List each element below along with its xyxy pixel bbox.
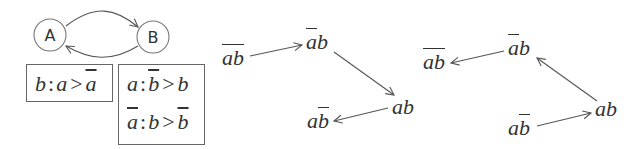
node-b-label: B [148, 28, 159, 47]
var-a: a [307, 108, 318, 133]
middle-state-nab: ab [306, 31, 328, 53]
var-b-negated: b [519, 115, 530, 140]
var-b: b [519, 35, 530, 60]
rule-a-2: a:b>b [127, 109, 189, 135]
edge-a-to-b [66, 11, 138, 27]
rule-right: b [178, 71, 189, 96]
node-a-label: A [45, 26, 56, 45]
right-state-anb: ab [508, 117, 530, 139]
rule-b: b:a>a [35, 71, 97, 97]
var-b-negated: b [233, 45, 244, 70]
rule-colon: : [46, 71, 56, 96]
var-a-negated: a [508, 35, 519, 60]
var-a: a [392, 94, 403, 119]
edge-ab-to-nab [537, 58, 597, 101]
rule-gt: > [159, 109, 177, 134]
edge-ab-to-anb [334, 108, 388, 121]
rule-left-negated: b [148, 71, 159, 96]
rule-left: a [56, 71, 67, 96]
var-b: b [606, 96, 617, 121]
var-a-negated: a [423, 49, 434, 74]
right-state-nab: ab [508, 37, 530, 59]
rule-right-negated: a [86, 71, 97, 96]
rule-player-negated: a [127, 109, 138, 134]
edge-anb-to-ab [537, 113, 591, 126]
rule-colon: : [138, 71, 148, 96]
rule-right-negated: b [178, 109, 189, 134]
var-a-negated: a [306, 29, 317, 54]
rule-player: a [127, 71, 138, 96]
rule-gt: > [159, 71, 177, 96]
var-b-negated: b [318, 108, 329, 133]
edge-nab-to-nanb [451, 51, 504, 63]
preference-box-a: a:b>b a:b>b [118, 64, 205, 145]
var-b: b [317, 29, 328, 54]
var-b: b [403, 94, 414, 119]
preference-box-b: b:a>a [26, 64, 113, 102]
rule-a-1: a:b>b [127, 71, 189, 97]
edge-nanb-to-nab [250, 45, 302, 56]
rule-left: b [148, 109, 159, 134]
game-graph: A B [34, 11, 169, 57]
middle-state-nanb: ab [222, 47, 244, 69]
middle-state-anb: ab [307, 110, 329, 132]
edge-nab-to-ab [334, 52, 394, 95]
middle-state-ab: ab [392, 96, 414, 118]
rule-colon: : [138, 109, 148, 134]
right-state-nanb: ab [423, 51, 445, 73]
var-a-negated: a [222, 45, 233, 70]
right-state-ab: ab [595, 98, 617, 120]
edge-b-to-a [66, 46, 138, 57]
rule-gt: > [67, 71, 85, 96]
rule-player: b [35, 71, 46, 96]
var-a: a [595, 96, 606, 121]
var-a: a [508, 115, 519, 140]
var-b-negated: b [434, 49, 445, 74]
